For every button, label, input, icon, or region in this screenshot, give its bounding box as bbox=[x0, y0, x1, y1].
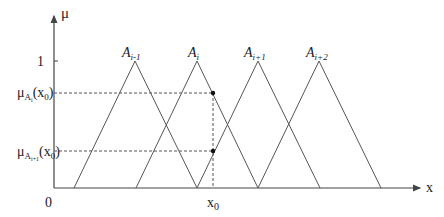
triangle-a-i-plus-1 bbox=[197, 61, 320, 188]
point-upper bbox=[211, 91, 215, 95]
set-label-a-i-minus-1: Ai-1 bbox=[121, 45, 141, 62]
point-lower bbox=[211, 149, 215, 153]
x-axis-label: x bbox=[426, 180, 433, 195]
triangle-a-i-minus-1 bbox=[74, 61, 197, 188]
mu-a-i-x0-label: μAi(x0) bbox=[17, 85, 54, 103]
y-tick-one-label: 1 bbox=[37, 54, 44, 69]
set-label-a-i-plus-1: Ai+1 bbox=[243, 45, 266, 62]
set-label-a-i: Ai bbox=[187, 45, 200, 62]
fuzzy-membership-diagram: μ x 0 1 x0 μAi(x0) μAi+1(x0) Ai-1 Ai Ai+… bbox=[0, 0, 444, 217]
y-axis-label: μ bbox=[61, 5, 69, 21]
triangle-a-i-plus-2 bbox=[258, 61, 381, 188]
x0-label: x0 bbox=[207, 195, 219, 212]
set-label-a-i-plus-2: Ai+2 bbox=[305, 45, 328, 62]
origin-label: 0 bbox=[45, 195, 52, 210]
triangle-a-i bbox=[136, 61, 258, 188]
